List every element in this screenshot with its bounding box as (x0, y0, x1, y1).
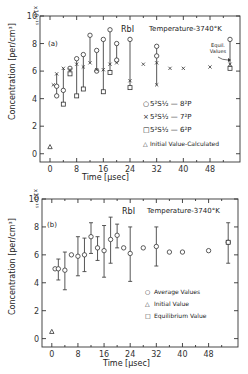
x-axis-label-a: Time [µsec] (82, 174, 129, 182)
svg-text:32: 32 (152, 165, 162, 174)
legend-item-average: ○Average Values (145, 288, 200, 295)
svg-text:16: 16 (99, 350, 109, 359)
svg-text:0: 0 (34, 335, 39, 344)
x-axis-label-b: Time [µsec] (103, 360, 150, 368)
legend-item-6p: □5²S½ — 6²P (143, 126, 191, 134)
svg-text:40: 40 (178, 165, 188, 174)
panel-label-a: (a) (48, 40, 58, 48)
equil-values-annotation: Equil. Values (208, 42, 228, 54)
svg-text:48: 48 (205, 165, 215, 174)
chart-title-b: RbI (122, 207, 135, 216)
svg-text:32: 32 (151, 350, 161, 359)
svg-text:6: 6 (34, 251, 39, 260)
temperature-label-a: Temperature-3740°K (149, 25, 222, 33)
svg-text:48: 48 (204, 350, 214, 359)
svg-text:40: 40 (177, 350, 187, 359)
legend-item-8p: ○5²S½ — 8²P (143, 100, 191, 108)
legend-item-equilibrium: □Equilibrium Value (145, 312, 206, 319)
legend-item-7p: ×5²S½ — 7²P (143, 113, 191, 121)
svg-text:8: 8 (34, 223, 39, 232)
legend-item-initial: △Initial Value-Calculated (143, 140, 219, 147)
svg-text:8: 8 (75, 350, 80, 359)
multiplier-label-b: x10⁻¹⁵ (32, 189, 40, 208)
y-axis-label-a: Concentration [per/cm³] (8, 23, 17, 120)
y-axis-label-b: Concentration [per/cm³] (8, 218, 17, 315)
svg-text:2: 2 (34, 307, 39, 316)
legend-item-initial-b: △Initial Value (145, 300, 189, 307)
multiplier-label-a: x10⁻¹⁵ (32, 6, 40, 25)
svg-text:2: 2 (32, 122, 37, 131)
chart-panel-a: 0246810081624324048 (a) RbI Temperature-… (0, 0, 248, 188)
chart-panel-b: 0246810081624324048 (b) RbI Temperature-… (0, 187, 248, 374)
temperature-label-b: Temperature-3740°K (147, 207, 220, 215)
svg-text:0: 0 (49, 350, 54, 359)
chart-title-a: RbI (121, 25, 134, 34)
panel-label-b: (b) (47, 221, 57, 229)
svg-text:24: 24 (125, 350, 135, 359)
svg-text:4: 4 (32, 95, 37, 104)
svg-text:8: 8 (74, 165, 79, 174)
svg-text:0: 0 (47, 165, 52, 174)
svg-text:0: 0 (32, 150, 37, 159)
svg-text:8: 8 (32, 40, 37, 49)
svg-text:6: 6 (32, 67, 37, 76)
svg-text:4: 4 (34, 279, 39, 288)
